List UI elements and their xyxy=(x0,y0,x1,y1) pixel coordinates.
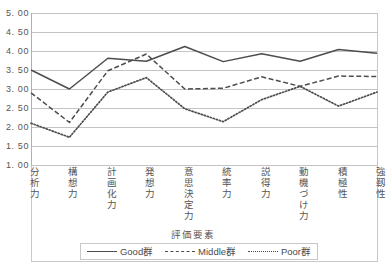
y-axis-tick-label: 4. 00 xyxy=(0,47,29,56)
x-axis-tick-label: 発想力 xyxy=(138,167,154,200)
chart-figure: 5. 004. 504. 003. 503. 002. 502. 001. 50… xyxy=(0,0,386,268)
x-axis-category-labels: 分析力構想力計画化力発想力意思決定力統率力説得力動機づけ力積極性強靱性 xyxy=(31,167,378,229)
chart-legend: Good群 Middle群 Poor群 xyxy=(80,243,318,260)
legend-line-dashed-icon xyxy=(165,248,195,255)
y-axis-tick-label: 2. 50 xyxy=(0,104,29,113)
legend-line-dotted-icon xyxy=(248,248,278,255)
series-overlay xyxy=(31,13,378,165)
y-axis-tick-label: 4. 50 xyxy=(0,28,29,37)
legend-line-solid-icon xyxy=(87,248,117,255)
x-axis-tick-label: 意思決定力 xyxy=(177,167,193,222)
series-line xyxy=(31,78,377,138)
legend-label-middle: Middle群 xyxy=(198,247,236,257)
x-axis-tick-label: 分析力 xyxy=(23,167,39,200)
series-line xyxy=(31,46,377,89)
legend-entry-middle: Middle群 xyxy=(165,247,236,257)
y-axis-tick-label: 3. 00 xyxy=(0,85,29,94)
y-axis-tick-labels: 5. 004. 504. 003. 503. 002. 502. 001. 50… xyxy=(0,0,29,268)
legend-entry-good: Good群 xyxy=(87,247,153,257)
x-axis-tick-label: 積極性 xyxy=(331,167,347,200)
y-axis-tick-label: 1. 50 xyxy=(0,142,29,151)
x-axis-tick-label: 計画化力 xyxy=(100,167,116,211)
x-axis-tick-label: 統率力 xyxy=(215,167,231,200)
x-axis-tick-label: 動機づけ力 xyxy=(292,167,308,222)
y-axis-tick-label: 5. 00 xyxy=(0,9,29,18)
y-axis-tick-label: 3. 50 xyxy=(0,66,29,75)
x-axis-tick-label: 構想力 xyxy=(61,167,77,200)
legend-label-good: Good群 xyxy=(120,247,153,257)
gridline xyxy=(31,165,378,166)
y-axis-tick-label: 2. 00 xyxy=(0,123,29,132)
series-line xyxy=(31,54,377,122)
x-axis-title: 評価要素 xyxy=(0,229,386,240)
legend-label-poor: Poor群 xyxy=(281,247,311,257)
x-axis-tick-label: 強靱性 xyxy=(369,167,385,200)
legend-entry-poor: Poor群 xyxy=(248,247,311,257)
x-axis-tick-label: 説得力 xyxy=(254,167,270,200)
